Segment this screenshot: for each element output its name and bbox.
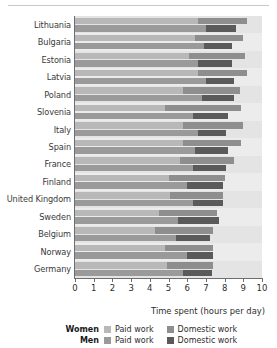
segment-men-domestic-work — [206, 25, 236, 31]
segment-men-paid-work — [75, 165, 193, 171]
bar-group — [75, 121, 262, 138]
x-tick-label: 1 — [91, 283, 96, 293]
time-use-bar-chart: LithuaniaBulgariaEstoniaLatviaPolandSlov… — [0, 0, 277, 348]
segment-men-paid-work — [75, 182, 187, 188]
legend-row: MenPaid workDomestic work — [0, 335, 277, 346]
chart-legend: WomenPaid workDomestic workMenPaid workD… — [0, 324, 277, 346]
bar-women — [75, 18, 247, 24]
x-tick — [150, 278, 151, 282]
segment-men-domestic-work — [193, 113, 229, 119]
bar-women — [75, 157, 234, 163]
segment-men-paid-work — [75, 235, 176, 241]
bar-women — [75, 227, 213, 233]
segment-women-domestic-work — [183, 87, 239, 93]
segment-women-paid-work — [75, 53, 189, 59]
segment-men-paid-work — [75, 43, 204, 49]
segment-men-paid-work — [75, 147, 195, 153]
legend-swatch-icon — [167, 326, 174, 333]
legend-label: Domestic work — [178, 325, 238, 334]
segment-women-domestic-work — [198, 70, 247, 76]
bar-women — [75, 192, 223, 198]
category-label: United Kingdom — [0, 194, 71, 204]
category-axis-labels: LithuaniaBulgariaEstoniaLatviaPolandSlov… — [0, 16, 71, 278]
bar-men — [75, 113, 228, 119]
segment-men-domestic-work — [204, 43, 232, 49]
category-label: Spain — [0, 142, 71, 152]
category-label: Belgium — [0, 229, 71, 239]
segment-men-paid-work — [75, 270, 183, 276]
segment-men-domestic-work — [193, 165, 227, 171]
bar-men — [75, 217, 219, 223]
bar-women — [75, 262, 213, 268]
legend-label: Paid work — [115, 325, 154, 334]
x-tick — [75, 278, 76, 282]
bar-women — [75, 35, 243, 41]
x-tick-label: 3 — [128, 283, 133, 293]
x-tick — [131, 278, 132, 282]
x-tick — [206, 278, 207, 282]
x-tick — [187, 278, 188, 282]
segment-women-paid-work — [75, 210, 159, 216]
bar-group — [75, 208, 262, 225]
top-divider — [8, 5, 269, 6]
bar-women — [75, 53, 245, 59]
legend-gender-label: Men — [0, 336, 104, 345]
bar-men — [75, 78, 234, 84]
bar-men — [75, 252, 213, 258]
x-tick-label: 10 — [257, 283, 268, 293]
segment-women-paid-work — [75, 105, 165, 111]
bar-women — [75, 140, 241, 146]
bar-men — [75, 43, 232, 49]
segment-men-domestic-work — [187, 182, 223, 188]
segment-men-domestic-work — [195, 147, 229, 153]
bar-men — [75, 235, 210, 241]
segment-men-domestic-work — [187, 252, 213, 258]
legend-entry: Domestic work — [167, 336, 238, 345]
segment-men-domestic-work — [198, 130, 226, 136]
category-label: France — [0, 159, 71, 169]
category-label: Slovenia — [0, 107, 71, 117]
segment-men-paid-work — [75, 60, 198, 66]
category-label: Sweden — [0, 212, 71, 222]
segment-women-domestic-work — [198, 18, 247, 24]
legend-row: WomenPaid workDomestic work — [0, 324, 277, 335]
category-label: Bulgaria — [0, 37, 71, 47]
segment-women-domestic-work — [170, 192, 222, 198]
segment-women-domestic-work — [165, 245, 214, 251]
legend-entry: Domestic work — [167, 325, 238, 334]
segment-women-paid-work — [75, 140, 183, 146]
bar-group — [75, 51, 262, 68]
category-label: Latvia — [0, 72, 71, 82]
x-tick — [243, 278, 244, 282]
plot-area — [75, 16, 262, 278]
segment-women-domestic-work — [165, 105, 242, 111]
segment-men-domestic-work — [178, 217, 219, 223]
segment-men-domestic-work — [176, 235, 210, 241]
segment-men-paid-work — [75, 200, 193, 206]
x-tick-label: 6 — [184, 283, 189, 293]
bar-group — [75, 33, 262, 50]
category-label: Germany — [0, 264, 71, 274]
bar-group — [75, 68, 262, 85]
bar-group — [75, 173, 262, 190]
bar-men — [75, 25, 236, 31]
bar-women — [75, 122, 243, 128]
segment-women-domestic-work — [189, 53, 245, 59]
x-tick-label: 2 — [110, 283, 115, 293]
segment-men-domestic-work — [193, 200, 223, 206]
bar-women — [75, 70, 247, 76]
bar-men — [75, 95, 234, 101]
legend-entry: Paid work — [104, 336, 154, 345]
segment-men-domestic-work — [202, 95, 234, 101]
segment-men-paid-work — [75, 95, 202, 101]
segment-women-paid-work — [75, 245, 165, 251]
x-tick — [94, 278, 95, 282]
bar-men — [75, 165, 226, 171]
segment-men-paid-work — [75, 113, 193, 119]
category-label: Norway — [0, 247, 71, 257]
bar-group — [75, 86, 262, 103]
x-tick — [169, 278, 170, 282]
segment-women-domestic-work — [195, 35, 244, 41]
bar-group — [75, 243, 262, 260]
category-label: Estonia — [0, 55, 71, 65]
